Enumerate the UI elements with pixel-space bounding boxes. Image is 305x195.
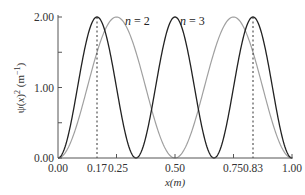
annotation-n2: n = 2: [125, 14, 150, 28]
x-axis-title: x(m): [164, 176, 185, 189]
x-tick-label-083: 0.83: [243, 162, 263, 174]
curve-n2: [58, 17, 292, 158]
y-ticks: [58, 17, 62, 158]
probability-density-chart: 0.00 1.00 2.00 0.00 0.17 0.25 0.50 0.75 …: [0, 0, 305, 195]
x-tick-label-050: 0.50: [165, 162, 185, 174]
x-tick-label-000: 0.00: [48, 162, 68, 174]
x-ticks: [117, 154, 293, 158]
annotation-n3: n = 3: [180, 14, 205, 28]
x-tick-label-100: 1.00: [282, 162, 302, 174]
x-tick-label-075: 0.75: [223, 162, 243, 174]
y-axis-title: ψ(x)2 (m−1): [13, 63, 28, 114]
x-tick-label-025: 0.25: [108, 162, 128, 174]
y-tick-label-2: 2.00: [34, 11, 54, 23]
x-tick-label-017: 0.17: [87, 162, 107, 174]
y-tick-label-1: 1.00: [34, 82, 54, 94]
curve-n3: [58, 17, 292, 158]
